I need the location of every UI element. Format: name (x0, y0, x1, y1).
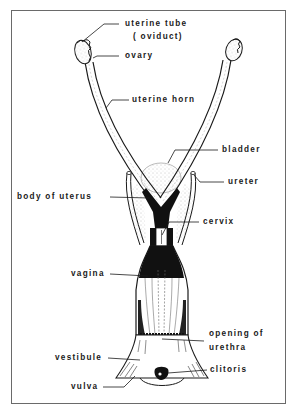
right-ovary (223, 37, 245, 63)
bladder-shape (141, 163, 181, 193)
label-ureter: ureter (228, 177, 259, 187)
label-body-of-uterus: body of uterus (17, 192, 92, 202)
label-vestibule: vestibule (55, 353, 102, 363)
left-uterine-horn (85, 62, 161, 205)
label-cervix: cervix (203, 217, 234, 227)
label-vulva: vulva (71, 382, 98, 392)
vagina (136, 246, 188, 335)
label-uterine-tube: uterine tube (125, 19, 187, 29)
label-vagina: vagina (71, 269, 105, 279)
label-clitoris: clitoris (210, 365, 247, 375)
label-uterine-horn: uterine horn (132, 95, 195, 105)
reproductive-tract-illustration (0, 0, 297, 415)
left-ovary (72, 38, 94, 65)
label-oviduct: ( oviduct) (133, 32, 183, 42)
label-opening-of: opening of (209, 329, 264, 339)
cervix (150, 228, 173, 246)
label-bladder: bladder (222, 145, 261, 155)
label-ovary: ovary (125, 51, 153, 61)
label-urethra: urethra (209, 343, 246, 353)
